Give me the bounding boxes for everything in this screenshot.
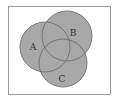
set-b-label: B	[70, 28, 77, 38]
set-a-label: A	[29, 42, 37, 52]
venn-svg: A B C	[0, 0, 117, 100]
set-c-label: C	[59, 74, 66, 84]
venn-diagram: A B C	[0, 0, 117, 100]
